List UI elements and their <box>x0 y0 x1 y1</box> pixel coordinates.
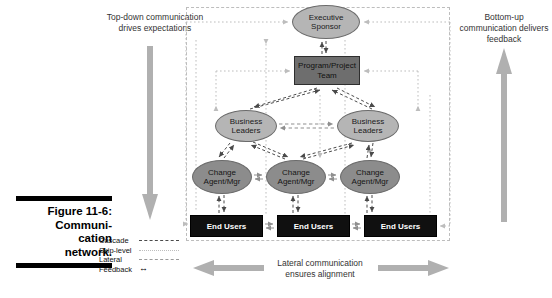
node-program-project-team-line2: Team <box>298 71 356 81</box>
node-business-leaders-right-line1: Business <box>352 117 384 127</box>
node-business-leaders-left[interactable]: Business Leaders <box>215 110 277 142</box>
node-program-project-team[interactable]: Program/Project Team <box>294 56 360 85</box>
node-business-leaders-left-line1: Business <box>230 117 262 127</box>
node-change-agent-1-line1: Change <box>204 168 241 178</box>
node-business-leaders-right-line2: Leaders <box>352 126 384 136</box>
node-change-agent-1-line2: Agent/Mgr <box>204 177 241 187</box>
node-change-agent-3[interactable]: Change Agent/Mgr <box>340 160 400 194</box>
connector-layer <box>0 0 552 298</box>
node-end-users-1-label: End Users <box>207 222 247 231</box>
figure-canvas: Top-down communication drives expectatio… <box>0 0 552 298</box>
node-business-leaders-left-line2: Leaders <box>230 126 262 136</box>
node-change-agent-1[interactable]: Change Agent/Mgr <box>192 160 252 194</box>
node-change-agent-3-line1: Change <box>352 168 389 178</box>
node-executive-sponsor-line2: Sponsor <box>309 22 344 32</box>
node-change-agent-2-line2: Agent/Mgr <box>278 177 315 187</box>
node-end-users-2-label: End Users <box>294 222 334 231</box>
node-end-users-1[interactable]: End Users <box>190 215 263 237</box>
node-program-project-team-line1: Program/Project <box>298 61 356 71</box>
node-executive-sponsor-line1: Executive <box>309 13 344 23</box>
node-business-leaders-right[interactable]: Business Leaders <box>337 110 399 142</box>
node-end-users-3-label: End Users <box>381 222 421 231</box>
node-executive-sponsor[interactable]: Executive Sponsor <box>292 5 360 39</box>
node-change-agent-2[interactable]: Change Agent/Mgr <box>266 160 326 194</box>
node-change-agent-2-line1: Change <box>278 168 315 178</box>
node-change-agent-3-line2: Agent/Mgr <box>352 177 389 187</box>
node-end-users-2[interactable]: End Users <box>277 215 350 237</box>
node-end-users-3[interactable]: End Users <box>364 215 437 237</box>
